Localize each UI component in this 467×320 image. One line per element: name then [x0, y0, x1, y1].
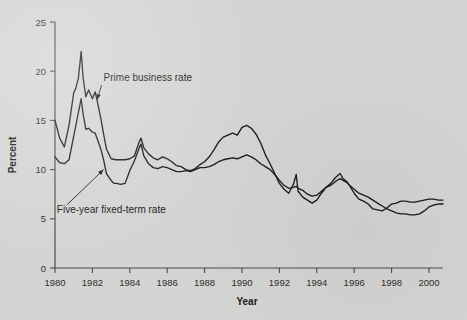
y-tick-label: 10 [35, 164, 46, 175]
x-tick-label: 1984 [119, 277, 140, 288]
series-annotation-label: Prime business rate [104, 72, 193, 83]
y-tick-label: 5 [41, 213, 46, 224]
x-tick-label: 1988 [194, 277, 215, 288]
x-axis: 1980198219841986198819901992199419961998… [44, 268, 443, 288]
x-tick-label: 1982 [82, 277, 103, 288]
annotation-arrow [67, 170, 104, 205]
x-tick-label: 1980 [44, 277, 65, 288]
x-tick-label: 1986 [157, 277, 178, 288]
series-annotation-label: Five-year fixed-term rate [57, 204, 166, 215]
chart-canvas: 0510152025 19801982198419861988199019921… [0, 0, 467, 320]
interest-rate-chart-figure: 0510152025 19801982198419861988199019921… [0, 0, 467, 320]
x-tick-label: 1998 [381, 277, 402, 288]
y-tick-label: 0 [41, 263, 46, 274]
y-tick-label: 25 [35, 17, 46, 28]
x-tick-label: 2000 [418, 277, 439, 288]
y-axis-title: Percent [7, 136, 18, 173]
x-tick-label: 1996 [344, 277, 365, 288]
y-tick-label: 20 [35, 66, 46, 77]
x-tick-label: 1994 [306, 277, 327, 288]
x-tick-label: 1992 [269, 277, 290, 288]
y-axis: 0510152025 [35, 17, 55, 274]
annotation-arrowhead [97, 94, 101, 100]
annotations: Prime business rateFive-year fixed-term … [57, 72, 193, 215]
y-tick-label: 15 [35, 115, 46, 126]
x-tick-label: 1990 [231, 277, 252, 288]
x-axis-title: Year [236, 296, 257, 307]
series-line [55, 99, 443, 215]
